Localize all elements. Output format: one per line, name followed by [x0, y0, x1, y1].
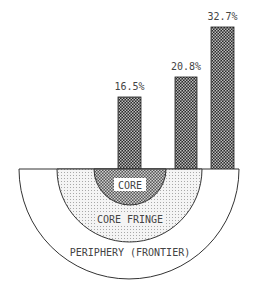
- bar-core: [118, 97, 141, 170]
- bar-periphery-value: 32.7%: [207, 11, 237, 22]
- bar-periphery: [211, 27, 234, 170]
- core-periphery-chart: 16.5% 20.8% 32.7% CORE CORE FRINGE PERIP…: [0, 0, 253, 290]
- core-label: CORE: [118, 180, 142, 191]
- periphery-label: PERIPHERY (FRONTIER): [70, 247, 190, 258]
- bar-fringe-value: 20.8%: [171, 61, 201, 72]
- bar-fringe: [175, 77, 197, 170]
- core-fringe-label: CORE FRINGE: [97, 214, 163, 225]
- bars: [118, 27, 234, 170]
- bar-core-value: 16.5%: [114, 81, 144, 92]
